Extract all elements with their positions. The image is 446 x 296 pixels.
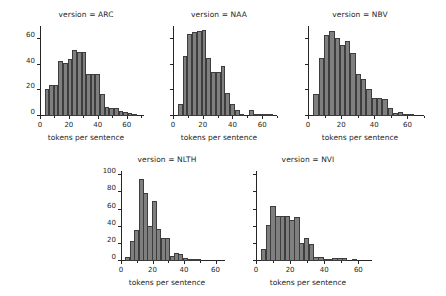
y-tick-label: 0	[31, 108, 35, 116]
x-tick-label: 20	[148, 266, 157, 274]
facet-nvi: version = NVI0204060tokens per sentence	[238, 155, 378, 295]
x-tick-minor	[54, 116, 55, 118]
y-tick	[253, 174, 256, 175]
x-tick-label: 0	[119, 266, 123, 274]
x-tick-label: 40	[93, 121, 102, 129]
y-tick	[305, 115, 308, 116]
histogram-bar	[240, 114, 245, 116]
x-tick-minor	[188, 116, 189, 118]
x-tick	[407, 116, 408, 119]
bar-series	[173, 26, 277, 116]
y-tick	[253, 260, 256, 261]
x-tick	[173, 116, 174, 119]
bar-series	[40, 26, 144, 116]
facet-naa: version = NAA0204060tokens per sentence	[155, 10, 283, 150]
x-tick	[358, 261, 359, 264]
x-tick	[232, 116, 233, 119]
x-tick-label: 0	[306, 121, 310, 129]
y-tick	[253, 191, 256, 192]
y-tick	[253, 209, 256, 210]
y-tick-label: 60	[26, 31, 35, 39]
x-tick-minor	[341, 261, 342, 263]
bar-series	[256, 171, 372, 261]
y-tick	[37, 115, 40, 116]
x-tick-label: 60	[211, 266, 220, 274]
y-tick	[253, 243, 256, 244]
y-tick	[37, 64, 40, 65]
x-tick-minor	[218, 116, 219, 118]
y-tick-label: 40	[26, 57, 35, 65]
x-tick-minor	[112, 116, 113, 118]
y-tick	[305, 89, 308, 90]
y-tick	[305, 64, 308, 65]
x-tick	[121, 261, 122, 264]
y-tick	[118, 209, 121, 210]
x-axis-label: tokens per sentence	[238, 278, 378, 287]
x-tick-label: 60	[354, 266, 363, 274]
x-axis-label: tokens per sentence	[103, 278, 231, 287]
x-tick-label: 20	[286, 266, 295, 274]
x-tick-minor	[200, 261, 201, 263]
facet-nlth: version = NLTH0204060020406080100tokens …	[103, 155, 231, 295]
y-tick	[253, 226, 256, 227]
facet-title: version = NAA	[155, 10, 283, 19]
x-tick-label: 40	[320, 266, 329, 274]
x-axis-label: tokens per sentence	[22, 133, 150, 142]
x-tick-minor	[325, 116, 326, 118]
facet-nbv: version = NBV0204060tokens per sentence	[290, 10, 430, 150]
x-tick	[184, 261, 185, 264]
x-tick	[69, 116, 70, 119]
x-tick	[256, 261, 257, 264]
x-tick-minor	[137, 261, 138, 263]
y-tick	[170, 64, 173, 65]
plot-area: 0204060020406080100	[121, 171, 225, 261]
x-tick-label: 20	[337, 121, 346, 129]
x-tick	[40, 116, 41, 119]
facet-title: version = NVI	[238, 155, 378, 164]
x-tick-label: 0	[254, 266, 258, 274]
x-tick-label: 40	[370, 121, 379, 129]
plot-area: 02040600204060	[40, 26, 144, 116]
plot-area: 0204060	[173, 26, 277, 116]
y-tick	[118, 226, 121, 227]
x-tick-minor	[307, 261, 308, 263]
x-tick	[127, 116, 128, 119]
histogram-figure: version = ARC02040600204060tokens per se…	[0, 0, 446, 296]
x-tick-minor	[358, 116, 359, 118]
x-tick-label: 60	[403, 121, 412, 129]
y-tick-label: 20	[26, 82, 35, 90]
y-tick	[170, 38, 173, 39]
plot-area: 0204060	[256, 171, 372, 261]
histogram-bar	[409, 114, 414, 116]
x-tick	[308, 116, 309, 119]
y-tick-label: 60	[107, 202, 116, 210]
x-tick-label: 40	[228, 121, 237, 129]
y-tick-label: 0	[112, 253, 116, 261]
y-tick	[118, 260, 121, 261]
x-tick-minor	[168, 261, 169, 263]
histogram-bar	[352, 259, 357, 261]
x-tick-label: 40	[180, 266, 189, 274]
y-tick	[118, 174, 121, 175]
x-tick-minor	[83, 116, 84, 118]
y-tick-label: 100	[103, 167, 116, 175]
histogram-bar	[132, 114, 137, 116]
x-tick-minor	[247, 116, 248, 118]
x-tick	[290, 261, 291, 264]
y-tick-label: 40	[107, 219, 116, 227]
facet-arc: version = ARC02040600204060tokens per se…	[22, 10, 150, 150]
x-tick-label: 20	[64, 121, 73, 129]
plot-area: 0204060	[308, 26, 424, 116]
facet-title: version = NBV	[290, 10, 430, 19]
y-tick	[170, 115, 173, 116]
facet-title: version = NLTH	[103, 155, 231, 164]
y-tick	[170, 89, 173, 90]
x-tick	[262, 116, 263, 119]
x-tick-label: 0	[38, 121, 42, 129]
x-tick-label: 60	[122, 121, 131, 129]
x-tick	[374, 116, 375, 119]
x-tick	[324, 261, 325, 264]
bar-series	[121, 171, 225, 261]
y-tick-label: 20	[107, 236, 116, 244]
x-axis-label: tokens per sentence	[155, 133, 283, 142]
